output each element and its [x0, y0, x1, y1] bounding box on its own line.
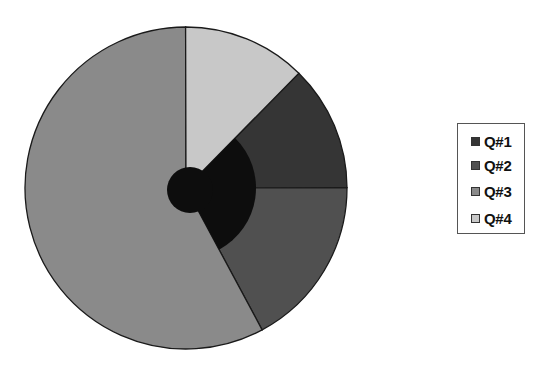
legend-swatch-q4 [471, 214, 480, 223]
legend-item-q2: Q#2 [471, 155, 511, 175]
legend-label-q4: Q#4 [484, 210, 511, 227]
legend-swatch-q2 [471, 161, 480, 170]
chart-legend: Q#1 Q#2 Q#3 Q#4 [457, 123, 525, 234]
legend-swatch-q3 [471, 187, 480, 196]
legend-item-q4: Q#4 [471, 208, 511, 228]
legend-item-q1: Q#1 [471, 131, 511, 151]
legend-label-q1: Q#1 [484, 133, 511, 150]
center-dark-circle [167, 167, 213, 213]
legend-item-q3: Q#3 [471, 181, 511, 201]
legend-swatch-q1 [471, 137, 480, 146]
legend-label-q2: Q#2 [484, 157, 511, 174]
legend-label-q3: Q#3 [484, 183, 511, 200]
